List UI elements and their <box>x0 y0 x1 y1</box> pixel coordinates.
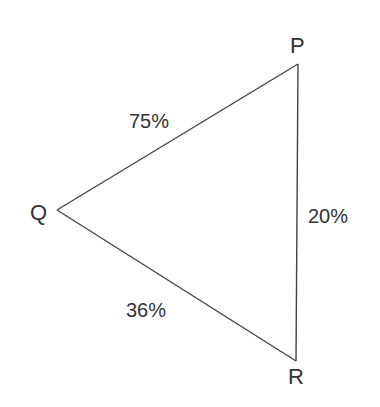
vertex-label-p: P <box>290 35 305 57</box>
edge-label-pr: 20% <box>308 206 348 226</box>
triangle-diagram <box>0 0 380 407</box>
edge-pr <box>296 64 298 361</box>
edge-qr <box>57 210 296 361</box>
edge-label-pq: 75% <box>129 111 169 131</box>
vertex-label-r: R <box>288 366 304 388</box>
vertex-label-q: Q <box>30 202 47 224</box>
edge-pq <box>57 64 298 210</box>
edge-label-qr: 36% <box>126 300 166 320</box>
